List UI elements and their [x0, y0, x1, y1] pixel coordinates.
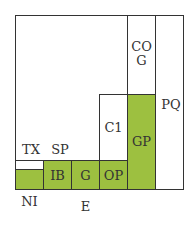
label-ni: NI — [15, 195, 44, 209]
label-cog: CO G — [127, 40, 156, 68]
label-tx: TX — [18, 143, 44, 157]
label-gp: GP — [127, 135, 156, 149]
label-c1: C1 — [99, 121, 128, 135]
label-g: G — [71, 169, 100, 183]
label-e: E — [71, 200, 100, 214]
label-pq: PQ — [157, 98, 185, 112]
label-ib: IB — [43, 169, 72, 183]
label-op: OP — [99, 169, 128, 183]
label-sp: SP — [47, 143, 73, 157]
ni-block — [15, 169, 44, 190]
